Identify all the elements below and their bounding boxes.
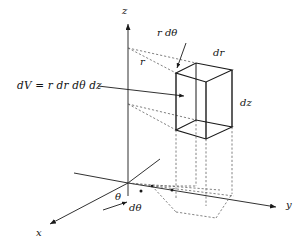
x-axis-label: x <box>36 228 42 238</box>
radius-line-r-upper <box>128 48 196 63</box>
ground-tick-a <box>140 190 143 193</box>
y-axis-label: y <box>286 200 292 210</box>
box-bottom-face <box>176 120 232 139</box>
dz-label: dz <box>240 98 252 108</box>
theta-label: θ <box>115 192 121 202</box>
ground-tick-c <box>151 185 154 188</box>
radius-line-rdtheta-upper <box>128 48 176 73</box>
ground-plane-ray <box>128 159 160 183</box>
volume-element-box <box>176 63 232 139</box>
box-top-face <box>176 63 232 82</box>
dtheta-label: dθ <box>129 203 141 213</box>
x-axis <box>50 183 128 224</box>
figure-canvas <box>0 0 302 250</box>
radius-line-lower-back <box>128 104 196 120</box>
ground-tick-b <box>171 189 174 192</box>
formula-leader-line <box>98 86 184 96</box>
footprint-edge-front <box>176 212 216 218</box>
z-axis-label: z <box>122 6 127 16</box>
dr-label: dr <box>213 48 224 58</box>
r-label: r <box>140 57 145 67</box>
dtheta-leader-line <box>103 202 127 210</box>
y-axis <box>128 183 276 207</box>
ground-plane-back-edge <box>74 173 128 183</box>
radius-line-lower-front <box>128 104 176 130</box>
axes-group <box>50 24 276 224</box>
cylindrical-volume-element-figure: dV = r dr dθ dz z y x r dθ r dr dz θ dθ <box>0 0 302 250</box>
r-dtheta-label: r dθ <box>157 28 177 38</box>
rdtheta-leader-line <box>177 43 186 68</box>
formula-label: dV = r dr dθ dz <box>17 80 102 91</box>
